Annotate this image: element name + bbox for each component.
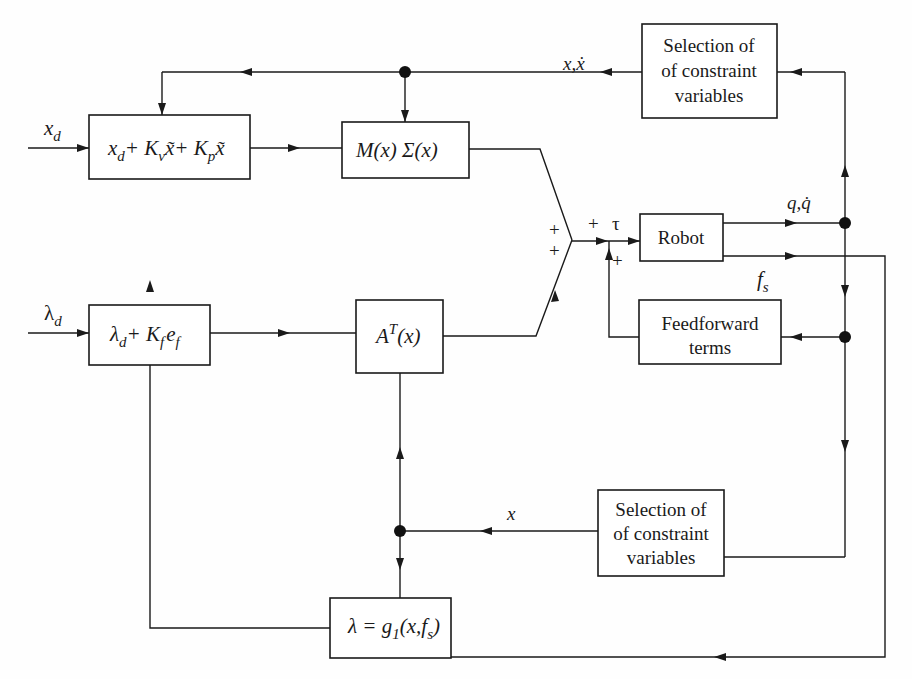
- svg-text:+: +: [612, 250, 623, 271]
- svg-text:AT(x): AT(x): [374, 321, 420, 348]
- block-lambda-function: λ = g1(x,fs): [330, 598, 451, 658]
- svg-text:Feedforward: Feedforward: [661, 313, 759, 334]
- svg-text:+: +: [549, 240, 560, 261]
- svg-text:terms: terms: [689, 337, 731, 358]
- block-robot: Robot: [640, 214, 723, 261]
- label-tau: τ: [612, 213, 620, 234]
- svg-text:of constraint: of constraint: [613, 523, 709, 544]
- svg-text:variables: variables: [627, 547, 696, 568]
- label-f-s: fs: [757, 267, 769, 295]
- label-x-d: xd: [43, 116, 61, 144]
- block-selection-bottom: Selection of of constraint variables: [598, 490, 724, 576]
- svg-text:+: +: [549, 219, 560, 240]
- svg-text:of constraint: of constraint: [661, 60, 757, 81]
- block-feedforward: Feedforward terms: [639, 300, 781, 364]
- svg-text:+: +: [588, 213, 599, 234]
- label-q-qdot: q,q̇: [787, 192, 811, 213]
- block-mass-matrix: M(x) Σ(x): [342, 122, 469, 178]
- block-jacobian-transpose: AT(x): [356, 300, 443, 373]
- control-block-diagram: xd+ Kvx̃+ Kpx̃ M(x) Σ(x) λd+ Kfef AT(x) …: [0, 0, 912, 679]
- svg-text:variables: variables: [675, 85, 744, 106]
- svg-text:Selection of: Selection of: [663, 35, 755, 56]
- label-x-selection: x: [506, 503, 516, 524]
- block-force-law: λd+ Kfef: [89, 305, 210, 365]
- svg-text:Robot: Robot: [658, 227, 705, 248]
- block-position-law: xd+ Kvx̃+ Kpx̃: [89, 115, 250, 179]
- block-selection-top: Selection of of constraint variables: [642, 24, 777, 118]
- svg-text:Selection of: Selection of: [615, 499, 707, 520]
- label-lambda-d: λd: [44, 301, 62, 329]
- label-x-xdot: x,ẋ: [562, 53, 585, 74]
- svg-text:M(x) Σ(x): M(x) Σ(x): [355, 138, 438, 162]
